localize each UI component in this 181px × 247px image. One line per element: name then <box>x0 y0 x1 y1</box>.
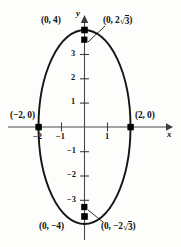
ytick-label-neg2: −2 <box>67 171 76 179</box>
plot-canvas <box>0 0 181 247</box>
ytick-label-1: 1 <box>71 98 75 106</box>
ytick-label-3: 3 <box>71 50 75 58</box>
ytick-label-neg3: −3 <box>67 196 76 204</box>
label-left-vertex: (−2, 0) <box>10 111 35 120</box>
label-upper-focus-prefix: (0, 2 <box>103 15 120 25</box>
label-lower-focus-suffix: ) <box>133 221 136 231</box>
xtick-label-neg1: −1 <box>56 133 65 141</box>
label-top-vertex: (0, 4) <box>41 16 61 25</box>
y-axis-label: y <box>76 9 80 18</box>
point-lower-focus <box>81 204 87 210</box>
ytick-label-neg1: −1 <box>67 147 76 155</box>
xtick-label-1: 1 <box>105 133 109 141</box>
ytick-label-2: 2 <box>71 74 75 82</box>
label-lower-focus-prefix: (0, −2 <box>101 221 123 231</box>
label-lower-focus-radical: √3 <box>123 221 133 232</box>
label-upper-focus-suffix: ) <box>129 15 132 25</box>
xtick-label-neg2: −2 <box>33 133 42 141</box>
label-lower-focus-radicand: 3 <box>128 221 133 231</box>
label-upper-focus-radicand: 3 <box>125 15 130 25</box>
leader-lines <box>88 26 105 222</box>
label-upper-focus-radical: √3 <box>120 15 130 26</box>
label-upper-focus: (0, 2√3) <box>103 16 132 25</box>
label-bottom-vertex: (0, −4) <box>39 222 64 231</box>
point-upper-focus <box>81 37 87 43</box>
ellipse-figure: y x (0, 4) (0, 2√3) (−2, 0) (2, 0) (0, −… <box>0 0 181 247</box>
label-right-vertex: (2, 0) <box>135 111 155 120</box>
label-lower-focus: (0, −2√3) <box>101 222 136 231</box>
point-left-vertex <box>35 124 41 130</box>
point-right-vertex <box>127 124 133 130</box>
point-top-vertex <box>81 27 88 34</box>
x-axis-label: x <box>167 130 171 139</box>
point-bottom-vertex <box>81 213 88 220</box>
x-axis <box>8 123 173 131</box>
